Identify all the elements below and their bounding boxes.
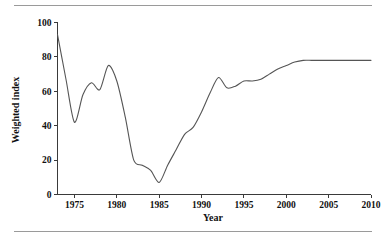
x-tick-label: 1995 xyxy=(234,200,253,210)
chart-plot-area: 020406080100 197519801985199019952000200… xyxy=(0,0,386,245)
y-tick-label: 60 xyxy=(42,87,52,97)
line-chart-svg: 020406080100 197519801985199019952000200… xyxy=(0,0,386,245)
y-tick-label: 20 xyxy=(42,155,52,165)
y-tick-label: 80 xyxy=(42,52,52,62)
x-tick-label: 1975 xyxy=(65,200,84,210)
x-tick-label: 2000 xyxy=(277,200,296,210)
x-tick-label: 1980 xyxy=(107,200,126,210)
y-axis-title: Weighted index xyxy=(10,77,21,143)
x-tick-label: 2010 xyxy=(362,200,381,210)
y-tick-label: 40 xyxy=(42,121,52,131)
y-axis: 020406080100 xyxy=(37,18,57,200)
x-tick-label: 2005 xyxy=(319,200,338,210)
y-tick-label: 0 xyxy=(47,190,52,200)
figure-container: 020406080100 197519801985199019952000200… xyxy=(0,0,386,245)
series-line-weighted-index xyxy=(58,35,372,183)
x-tick-label: 1990 xyxy=(192,200,211,210)
data-series-group xyxy=(58,35,372,183)
x-tick-group: 19751980198519901995200020052010 xyxy=(65,195,381,210)
x-axis-title: Year xyxy=(203,212,224,223)
y-tick-label: 100 xyxy=(37,18,52,28)
x-tick-label: 1985 xyxy=(150,200,169,210)
y-tick-group: 020406080100 xyxy=(37,18,57,200)
x-axis: 19751980198519901995200020052010 xyxy=(58,195,381,210)
